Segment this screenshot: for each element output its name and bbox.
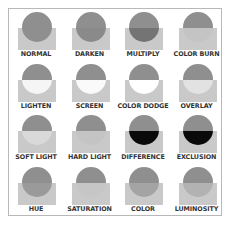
circle-top-half: [22, 167, 52, 183]
circle-top-half: [22, 115, 52, 131]
blend-mode-cell-hard-light: HARD LIGHT: [63, 112, 117, 164]
blend-mode-label: NORMAL: [9, 50, 63, 58]
blend-mode-cell-lighten: LIGHTEN: [9, 61, 63, 113]
blend-mode-cell-overlay: OVERLAY: [170, 61, 224, 113]
blend-mode-cell-color-dodge: COLOR DODGE: [116, 61, 170, 113]
circle-overlap-half: [22, 131, 52, 145]
circle-overlap-half: [22, 183, 52, 197]
blend-mode-label: HARD LIGHT: [63, 153, 117, 161]
circle-top-half: [129, 115, 159, 131]
blend-circle: [76, 64, 106, 94]
blend-circle: [76, 167, 106, 197]
circle-overlap-half: [183, 80, 213, 94]
circle-top-half: [76, 12, 106, 28]
circle-overlap-half: [183, 183, 213, 197]
blend-mode-label: SATURATION: [63, 205, 117, 213]
circle-overlap-half: [129, 131, 159, 145]
blend-circle: [183, 64, 213, 94]
blend-mode-label: SOFT LIGHT: [9, 153, 63, 161]
blend-mode-cell-normal: NORMAL: [9, 9, 63, 61]
blend-swatch: [18, 12, 56, 50]
blend-mode-label: COLOR: [116, 205, 170, 213]
circle-top-half: [22, 12, 52, 28]
blend-swatch: [72, 115, 110, 153]
circle-top-half: [76, 167, 106, 183]
blend-circle: [183, 167, 213, 197]
blend-mode-cell-difference: DIFFERENCE: [116, 112, 170, 164]
blend-circle: [22, 167, 52, 197]
blend-mode-label: SCREEN: [63, 102, 117, 110]
blend-swatch: [179, 115, 217, 153]
blend-circle: [129, 12, 159, 42]
circle-top-half: [22, 64, 52, 80]
circle-overlap-half: [22, 80, 52, 94]
blend-mode-cell-hue: HUE: [9, 164, 63, 216]
blend-swatch: [18, 64, 56, 102]
blend-mode-cell-luminosity: LUMINOSITY: [170, 164, 224, 216]
blend-circle: [183, 115, 213, 145]
blend-mode-label: DARKEN: [63, 50, 117, 58]
circle-top-half: [183, 12, 213, 28]
blend-circle: [22, 115, 52, 145]
circle-top-half: [76, 115, 106, 131]
blend-swatch: [72, 12, 110, 50]
circle-overlap-half: [76, 131, 106, 145]
circle-top-half: [129, 12, 159, 28]
blend-mode-cell-color-burn: COLOR BURN: [170, 9, 224, 61]
blend-circle: [22, 12, 52, 42]
blend-modes-panel: NORMAL DARKEN MULTIPLY COLOR BUR: [8, 8, 222, 216]
blend-circle: [129, 115, 159, 145]
circle-top-half: [76, 64, 106, 80]
circle-top-half: [129, 167, 159, 183]
blend-mode-label: MULTIPLY: [116, 50, 170, 58]
blend-mode-label: COLOR BURN: [170, 50, 224, 58]
blend-swatch: [18, 167, 56, 205]
blend-circle: [129, 167, 159, 197]
circle-overlap-half: [22, 28, 52, 42]
circle-top-half: [183, 167, 213, 183]
blend-circle: [76, 115, 106, 145]
blend-mode-cell-multiply: MULTIPLY: [116, 9, 170, 61]
blend-circle: [22, 64, 52, 94]
blend-swatch: [179, 167, 217, 205]
circle-overlap-half: [129, 183, 159, 197]
circle-top-half: [183, 115, 213, 131]
circle-overlap-half: [76, 80, 106, 94]
blend-circle: [183, 12, 213, 42]
circle-overlap-half: [183, 28, 213, 42]
blend-mode-cell-saturation: SATURATION: [63, 164, 117, 216]
blend-mode-label: LIGHTEN: [9, 102, 63, 110]
blend-swatch: [179, 12, 217, 50]
blend-swatch: [125, 64, 163, 102]
blend-mode-label: DIFFERENCE: [116, 153, 170, 161]
blend-mode-cell-exclusion: EXCLUSION: [170, 112, 224, 164]
blend-swatch: [18, 115, 56, 153]
blend-mode-cell-color: COLOR: [116, 164, 170, 216]
blend-circle: [76, 12, 106, 42]
blend-circle: [129, 64, 159, 94]
circle-overlap-half: [129, 80, 159, 94]
blend-mode-cell-soft-light: SOFT LIGHT: [9, 112, 63, 164]
circle-overlap-half: [183, 131, 213, 145]
blend-mode-label: EXCLUSION: [170, 153, 224, 161]
circle-top-half: [129, 64, 159, 80]
blend-mode-label: OVERLAY: [170, 102, 224, 110]
blend-mode-cell-darken: DARKEN: [63, 9, 117, 61]
blend-swatch: [125, 12, 163, 50]
blend-swatch: [72, 167, 110, 205]
circle-overlap-half: [76, 28, 106, 42]
blend-swatch: [179, 64, 217, 102]
blend-mode-cell-screen: SCREEN: [63, 61, 117, 113]
blend-swatch: [125, 115, 163, 153]
blend-swatch: [125, 167, 163, 205]
circle-top-half: [183, 64, 213, 80]
blend-swatch: [72, 64, 110, 102]
circle-overlap-half: [129, 28, 159, 42]
blend-mode-label: LUMINOSITY: [170, 205, 224, 213]
circle-overlap-half: [76, 183, 106, 197]
blend-mode-label: COLOR DODGE: [116, 102, 170, 110]
blend-mode-label: HUE: [9, 205, 63, 213]
